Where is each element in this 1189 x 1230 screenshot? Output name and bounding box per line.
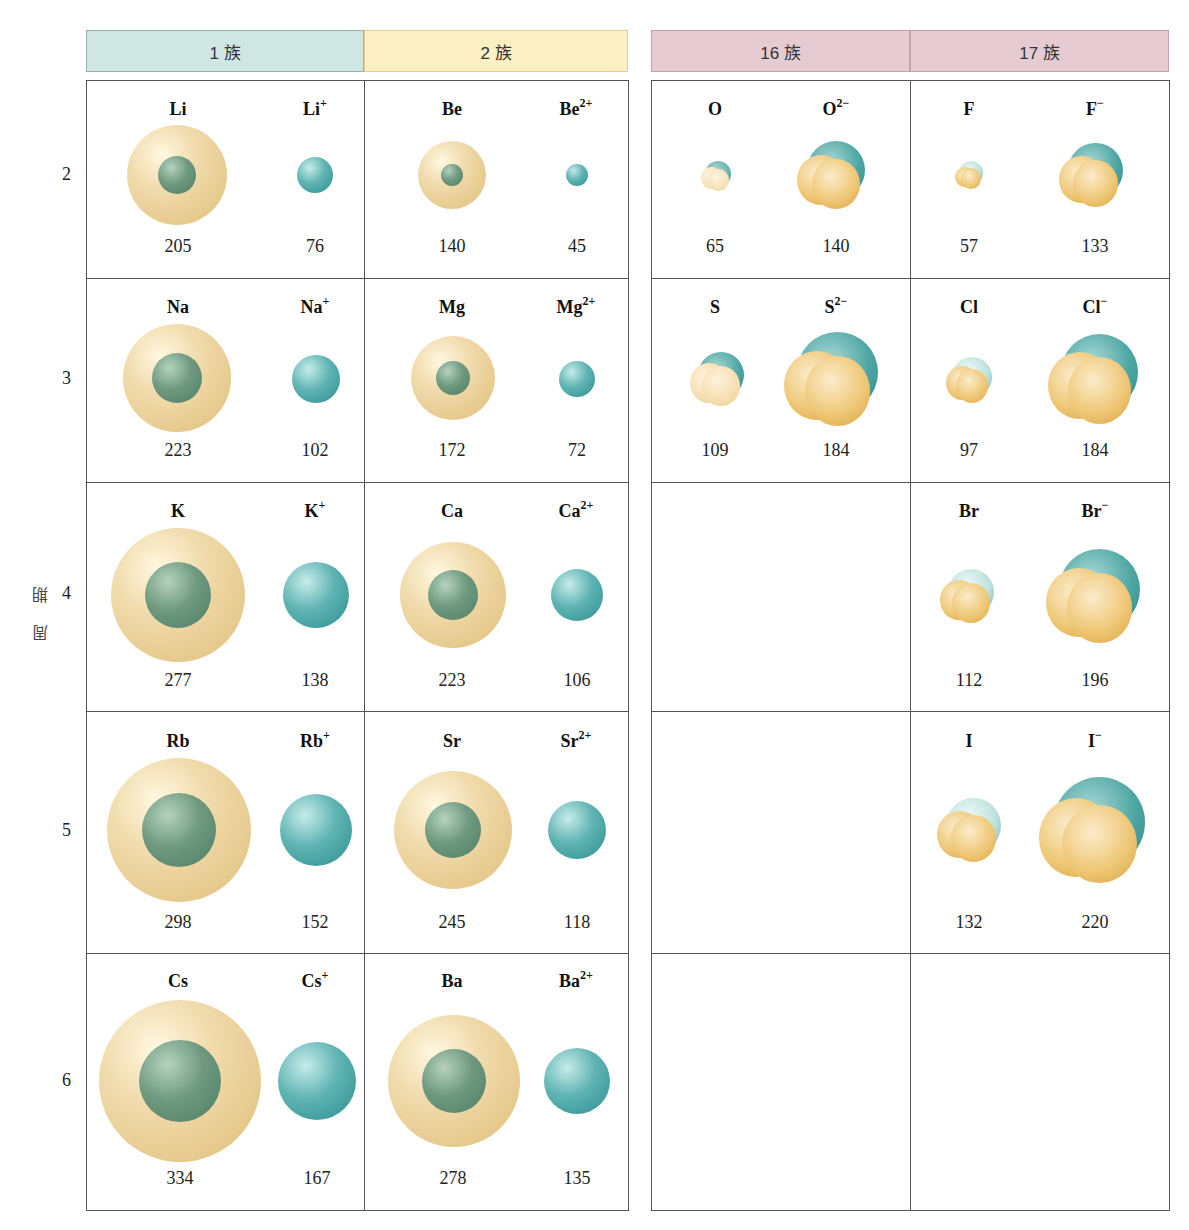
ion-symbol: Cl− (1083, 297, 1108, 318)
atom-symbol: Sr (443, 731, 461, 752)
atom-symbol: Mg (439, 297, 465, 318)
atom-symbol: K (171, 501, 185, 522)
atom-sphere-f (955, 161, 983, 189)
atom-sphere-ba (388, 1015, 520, 1147)
ion-symbol: Na+ (301, 297, 330, 318)
divider (651, 278, 1170, 279)
atom-sphere-sr (394, 771, 512, 889)
atom-radius: 334 (167, 1168, 194, 1189)
atom-symbol: Li (169, 99, 186, 120)
ion-symbol: Ba2+ (559, 971, 593, 992)
atom-radius: 245 (439, 912, 466, 933)
ion-radius: 184 (1082, 440, 1109, 461)
divider (910, 80, 911, 1211)
divider (364, 80, 365, 1211)
group-17-header: 17 族 (910, 30, 1169, 72)
atom-sphere-o (701, 161, 731, 191)
divider (86, 482, 629, 483)
divider (86, 278, 629, 279)
atom-sphere-cs (99, 1000, 261, 1162)
group-1-header: 1 族 (86, 30, 364, 72)
ion-sphere-ba (544, 1048, 610, 1114)
ion-symbol: K+ (305, 501, 326, 522)
atom-sphere-li (127, 125, 227, 225)
ion-sphere-rb (280, 794, 352, 866)
group-2-header: 2 族 (364, 30, 628, 72)
atom-symbol: Ca (441, 501, 463, 522)
ion-symbol: Ca2+ (559, 501, 594, 522)
ion-symbol: Li+ (303, 99, 327, 120)
ion-symbol: O2− (823, 99, 850, 120)
atom-symbol: I (965, 731, 972, 752)
atom-sphere-ca (400, 542, 506, 648)
ion-radius: 135 (564, 1168, 591, 1189)
atom-sphere-cl (946, 357, 992, 403)
atom-sphere-s (690, 352, 744, 406)
period-label-4: 4 (62, 583, 71, 604)
ion-symbol: I− (1088, 731, 1102, 752)
atom-symbol: Ba (441, 971, 462, 992)
ion-radius: 45 (568, 236, 586, 257)
ion-sphere-o2minus (797, 141, 865, 209)
ion-radius: 76 (306, 236, 324, 257)
atom-symbol: S (710, 297, 720, 318)
atom-sphere-br (940, 569, 994, 623)
ion-sphere-iminus (1039, 777, 1145, 883)
atom-sphere-mg (411, 336, 495, 420)
ion-sphere-clminus (1048, 334, 1138, 424)
atom-symbol: O (708, 99, 722, 120)
atom-sphere-rb (107, 758, 251, 902)
atom-sphere-i (937, 798, 1001, 862)
ion-symbol: Cs+ (302, 971, 329, 992)
ion-radius: 196 (1082, 670, 1109, 691)
atom-radius: 172 (439, 440, 466, 461)
atom-radius: 97 (960, 440, 978, 461)
atom-sphere-na (123, 324, 231, 432)
atom-symbol: Na (167, 297, 189, 318)
divider (86, 953, 629, 954)
atom-radius: 205 (165, 236, 192, 257)
atom-symbol: F (964, 99, 975, 120)
ion-symbol: Rb+ (300, 731, 330, 752)
ion-sphere-cs (278, 1042, 356, 1120)
ion-sphere-fminus (1059, 143, 1123, 207)
ion-sphere-sr (548, 801, 606, 859)
ion-symbol: Br− (1082, 501, 1109, 522)
ion-symbol: S2− (825, 297, 848, 318)
atom-radius: 223 (165, 440, 192, 461)
ion-sphere-ca (551, 569, 603, 621)
atom-symbol: Be (442, 99, 462, 120)
atom-radius: 132 (956, 912, 983, 933)
atom-radius: 109 (702, 440, 729, 461)
ion-symbol: Mg2+ (557, 297, 596, 318)
divider (651, 711, 1170, 712)
atom-sphere-k (111, 528, 245, 662)
group-16-header: 16 族 (651, 30, 910, 72)
period-label-2: 2 (62, 164, 71, 185)
ion-sphere-na (292, 355, 340, 403)
ion-sphere-mg (559, 361, 595, 397)
period-label-6: 6 (62, 1070, 71, 1091)
ion-radius: 167 (304, 1168, 331, 1189)
atom-radius: 140 (439, 236, 466, 257)
ion-radius: 220 (1082, 912, 1109, 933)
atom-symbol: Cs (168, 971, 188, 992)
atom-radius: 298 (165, 912, 192, 933)
atom-sphere-be (418, 141, 486, 209)
period-axis-label: 周期 (30, 565, 50, 641)
atom-symbol: Rb (166, 731, 189, 752)
atom-radius: 223 (439, 670, 466, 691)
ion-radius: 184 (823, 440, 850, 461)
ion-sphere-be (566, 164, 588, 186)
ion-sphere-k (283, 562, 349, 628)
atom-radius: 65 (706, 236, 724, 257)
ion-sphere-brminus (1046, 549, 1140, 643)
ion-radius: 72 (568, 440, 586, 461)
ion-symbol: Sr2+ (561, 731, 592, 752)
ion-radius: 133 (1082, 236, 1109, 257)
atom-radius: 112 (956, 670, 982, 691)
ion-symbol: F− (1086, 99, 1104, 120)
atom-symbol: Cl (960, 297, 978, 318)
atom-radius: 277 (165, 670, 192, 691)
atom-symbol: Br (959, 501, 979, 522)
